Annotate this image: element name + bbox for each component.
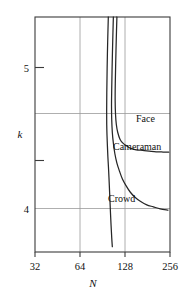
ytick-label-5: 5 xyxy=(24,63,29,74)
series-label-cameraman: Cameraman xyxy=(113,141,161,152)
x-axis-title: N xyxy=(88,277,97,289)
chart-figure: 32 64 128 256 5 4 N k Face Cameraman Cro… xyxy=(0,0,187,294)
line-chart-svg: 32 64 128 256 5 4 N k Face Cameraman Cro… xyxy=(0,0,187,294)
xtick-label-32: 32 xyxy=(30,261,41,272)
xtick-label-64: 64 xyxy=(75,261,86,272)
series-label-crowd: Crowd xyxy=(108,193,135,204)
series-label-face: Face xyxy=(136,113,155,124)
xtick-label-256: 256 xyxy=(162,261,178,272)
ytick-label-4: 4 xyxy=(24,204,30,215)
xtick-label-128: 128 xyxy=(117,261,133,272)
